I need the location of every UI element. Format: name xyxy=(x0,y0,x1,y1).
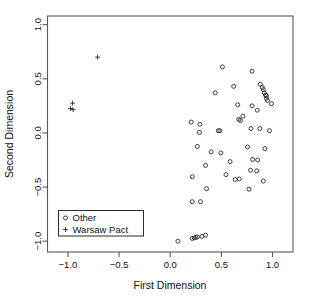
data-point-other xyxy=(219,151,223,155)
data-point-other xyxy=(198,122,202,126)
data-point-warsaw-pact xyxy=(70,101,75,106)
data-point-other xyxy=(251,157,255,161)
data-point-other xyxy=(190,175,194,179)
data-point-other xyxy=(261,179,265,183)
y-axis-title: Second Dimension xyxy=(3,90,15,178)
data-point-other xyxy=(270,102,274,106)
x-tick-label: −1.0 xyxy=(59,259,78,270)
x-axis-title: First Dimension xyxy=(134,279,207,291)
data-point-other xyxy=(247,187,251,191)
scatter-plot-figure: −1.0−0.50.00.51.0 −1.0−0.50.00.51.0 Firs… xyxy=(0,0,315,298)
legend-label-warsaw-pact: Warsaw Pact xyxy=(73,224,129,235)
data-point-other xyxy=(255,108,259,112)
y-tick-label: 0.5 xyxy=(32,72,43,85)
data-point-warsaw-pact xyxy=(95,55,100,60)
y-axis-ticks: −1.0−0.50.00.51.0 xyxy=(32,18,47,251)
x-tick-label: −0.5 xyxy=(110,259,129,270)
data-point-other xyxy=(258,127,262,131)
x-axis-ticks: −1.0−0.50.00.51.0 xyxy=(59,252,280,270)
data-point-other xyxy=(190,200,194,204)
data-point-other xyxy=(197,130,201,134)
data-point-other xyxy=(189,120,193,124)
data-point-other xyxy=(250,104,254,108)
y-tick-label: 0.0 xyxy=(32,126,43,139)
data-point-other xyxy=(255,169,259,173)
data-point-other xyxy=(213,91,217,95)
legend-label-other: Other xyxy=(73,212,97,223)
data-point-other xyxy=(233,177,237,181)
data-point-other xyxy=(195,144,199,148)
data-point-other xyxy=(220,65,224,69)
data-point-other xyxy=(232,84,236,88)
data-point-warsaw-pact xyxy=(68,106,73,111)
data-point-other xyxy=(204,163,208,167)
y-tick-label: −1.0 xyxy=(32,232,43,251)
x-tick-label: 0.0 xyxy=(164,259,177,270)
data-point-other xyxy=(224,173,228,177)
x-tick-label: 1.0 xyxy=(266,259,279,270)
data-point-other xyxy=(249,168,253,172)
data-point-other xyxy=(263,147,267,151)
data-point-other xyxy=(245,145,249,149)
data-point-other xyxy=(237,177,241,181)
data-point-warsaw-pact xyxy=(71,107,76,112)
plot-canvas: −1.0−0.50.00.51.0 −1.0−0.50.00.51.0 Firs… xyxy=(0,0,315,298)
y-tick-label: −0.5 xyxy=(32,178,43,197)
data-point-other xyxy=(267,129,271,133)
data-point-other xyxy=(256,158,260,162)
data-point-other xyxy=(209,150,213,154)
data-point-other xyxy=(198,200,202,204)
data-point-other xyxy=(176,239,180,243)
x-tick-label: 0.5 xyxy=(215,259,228,270)
data-point-other xyxy=(241,114,245,118)
legend: OtherWarsaw Pact xyxy=(59,211,144,237)
y-tick-label: 1.0 xyxy=(32,18,43,31)
data-point-other xyxy=(250,69,254,73)
data-point-other xyxy=(236,103,240,107)
data-point-other xyxy=(205,187,209,191)
data-point-other xyxy=(228,160,232,164)
data-point-other xyxy=(249,127,253,131)
